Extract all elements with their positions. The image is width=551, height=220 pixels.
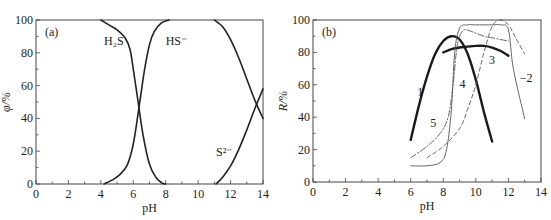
x-tick-label: 14 (257, 187, 269, 201)
series-line-3 (443, 46, 508, 56)
series-line-hs-decline- (214, 20, 263, 118)
x-tick-label: 10 (192, 187, 204, 201)
x-tick-label: 14 (535, 185, 547, 199)
y-axis-title: R/% (276, 91, 290, 113)
x-tick-label: 8 (163, 187, 169, 201)
y-tick-label: 100 (292, 13, 310, 27)
x-tick-label: 2 (65, 187, 71, 201)
curve-annotation: 3 (489, 53, 495, 67)
panel-label: (b) (322, 25, 336, 39)
x-tick-label: 4 (98, 187, 104, 201)
y-tick-label: 60 (21, 79, 33, 93)
curve-annotation: 1 (417, 85, 423, 99)
y-tick-label: 60 (298, 78, 310, 92)
curve-annotation: 4 (460, 77, 466, 91)
y-axis-title: φ/% (0, 92, 13, 112)
y-tick-label: 0 (27, 177, 33, 191)
curve-annotation: S²⁻ (216, 145, 232, 159)
x-tick-label: 8 (440, 185, 446, 199)
curve-annotation: 5 (430, 116, 436, 130)
x-tick-label: 10 (470, 185, 482, 199)
y-tick-label: 80 (21, 46, 33, 60)
y-tick-label: 80 (298, 45, 310, 59)
y-tick-label: 20 (298, 143, 310, 157)
x-tick-label: 0 (33, 187, 39, 201)
chart-panel-b: 02468101214020406080100pHR/%(b)1−2345 (276, 13, 547, 213)
y-tick-label: 0 (304, 175, 310, 189)
x-tick-label: 6 (408, 185, 414, 199)
x-tick-label: 0 (310, 185, 316, 199)
x-tick-label: 4 (375, 185, 381, 199)
panel-label: (a) (45, 25, 58, 39)
x-axis-title: pH (142, 201, 157, 215)
chart-panel-a: 02468101214020406080100pHφ/%(a)H₂SHS⁻S²⁻ (0, 13, 269, 215)
x-tick-label: 12 (502, 185, 514, 199)
y-tick-label: 20 (21, 144, 33, 158)
x-tick-label: 12 (225, 187, 237, 201)
y-tick-label: 40 (21, 111, 33, 125)
curve-annotation: −2 (520, 71, 533, 85)
x-tick-label: 6 (130, 187, 136, 201)
x-tick-label: 2 (343, 185, 349, 199)
x-axis-title: pH (420, 199, 435, 213)
curve-annotation: HS⁻ (166, 34, 187, 48)
y-tick-label: 100 (15, 13, 33, 27)
y-tick-label: 40 (298, 110, 310, 124)
curve-annotation: H₂S (104, 34, 124, 48)
